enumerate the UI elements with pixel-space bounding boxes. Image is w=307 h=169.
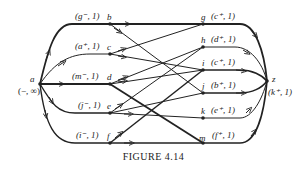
edge-g-z [203,24,267,81]
node-i-label: i [202,59,205,68]
node-k-tag: (e⁺, 1) [211,106,235,115]
node-k-label: k [201,107,205,116]
node-m-tag: (f⁺, 1) [212,131,235,140]
node-c-label: c [107,43,111,52]
edge-d-h [110,47,203,84]
node-j-label: j [202,82,205,91]
node-f-tag: (i⁻, 1) [76,131,99,140]
node-h-tag: (d⁺, 1) [211,35,236,44]
node-b-label: b [107,13,112,22]
node-d-label: d [107,73,112,82]
node-e-label: e [107,102,111,111]
node-d-tag: (m⁻, 1) [72,72,99,81]
node-b-tag: (g⁻, 1) [75,12,100,21]
node-g-tag: (c⁺, 1) [211,12,235,21]
node-i-tag: (c⁺, 1) [211,58,235,67]
node-z-label: z [272,75,276,84]
node-a-sublabel: (−, ∞) [18,87,40,96]
node-e-tag: (j⁻, 1) [78,101,101,110]
node-j-tag: (b⁺, 1) [211,81,236,90]
node-a-label: a [30,75,35,84]
node-h-label: h [201,36,206,45]
network-diagram [0,0,307,169]
node-g-label: g [201,13,206,22]
figure-caption: FIGURE 4.14 [0,151,307,162]
node-c-tag: (a⁺, 1) [75,42,100,51]
edge-b-j [110,24,203,93]
node-f-label: f [107,132,110,141]
node-m-label: m [199,134,206,143]
node-z-sublabel: (k⁺, 1) [268,88,292,97]
